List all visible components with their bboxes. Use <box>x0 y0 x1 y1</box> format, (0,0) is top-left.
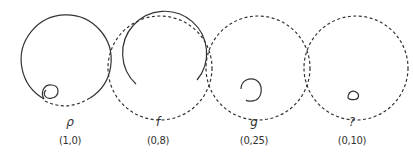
figure-3-symbol: g <box>224 115 284 129</box>
figure-1-value: (1,0) <box>40 135 100 146</box>
figure-3-curve <box>206 16 310 120</box>
figure-2-curve <box>108 11 212 120</box>
figure-4-symbol: ? <box>322 115 382 129</box>
figure-1-curve <box>21 15 111 106</box>
figure-2-value: (0,8) <box>128 135 188 146</box>
figure-1-symbol: ρ <box>40 115 100 129</box>
figure-4-value: (0,10) <box>322 135 382 146</box>
figure-2-symbol: f <box>128 115 188 129</box>
figure-3-value: (0,25) <box>224 135 284 146</box>
diagram-canvas <box>0 0 413 157</box>
figure-4-curve <box>304 16 408 120</box>
